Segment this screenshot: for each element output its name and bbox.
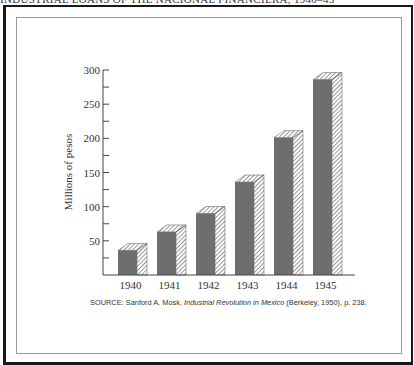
- y-tick-label: 250: [84, 98, 101, 110]
- source-suffix: (Berkeley, 1950), p. 238.: [284, 298, 366, 307]
- y-tick-label: 150: [84, 167, 101, 179]
- x-tick-label: 1942: [198, 279, 220, 291]
- x-tick-label: 1945: [315, 279, 338, 291]
- y-tick-label: 200: [84, 132, 101, 144]
- y-tick-label: 100: [84, 201, 101, 213]
- y-axis-label: Millions of pesos: [62, 134, 74, 210]
- x-tick-label: 1944: [276, 279, 299, 291]
- x-tick-label: 1940: [120, 279, 143, 291]
- bar-1940: [118, 243, 147, 275]
- y-tick-label: 300: [84, 64, 101, 76]
- x-axis-labels: 194019411942194319441945: [120, 279, 338, 291]
- bars-group: [118, 73, 342, 275]
- source-note: SOURCE: Sanford A. Mosk, Industrial Revo…: [90, 298, 367, 307]
- x-tick-label: 1941: [159, 279, 181, 291]
- bar-1942: [196, 207, 225, 276]
- bar-1944: [274, 131, 303, 275]
- source-prefix: SOURCE: Sanford A. Mosk,: [90, 298, 184, 307]
- source-book-title: Industrial Revolution in Mexico: [184, 298, 284, 307]
- x-tick-label: 1943: [237, 279, 260, 291]
- bar-1945: [313, 73, 342, 275]
- bar-1943: [235, 175, 264, 275]
- y-tick-label: 50: [89, 235, 101, 247]
- bar-1941: [157, 225, 186, 275]
